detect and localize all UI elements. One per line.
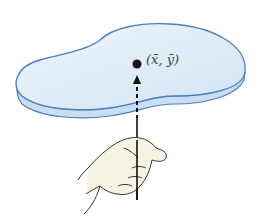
diagram-svg — [0, 0, 259, 224]
hand-illustration — [78, 137, 166, 214]
lamina-balance-diagram: (x̄, ȳ) — [0, 0, 259, 224]
centroid-point — [133, 60, 142, 69]
centroid-label: (x̄, ȳ) — [146, 52, 179, 67]
